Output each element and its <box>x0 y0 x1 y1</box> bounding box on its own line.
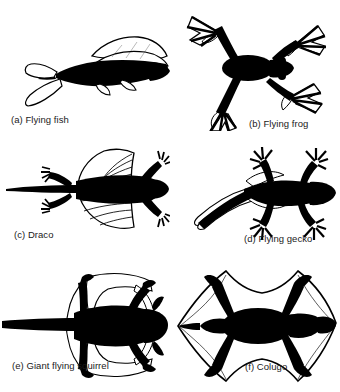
caption-giant-flying-squirrel: (e) Giant flying squirrel <box>12 360 109 371</box>
gliding-animals-figure: (a) Flying fish <box>0 0 340 392</box>
caption-flying-frog: (b) Flying frog <box>249 118 308 129</box>
giant-flying-squirrel-silhouette <box>0 261 170 392</box>
colugo-silhouette <box>170 261 340 392</box>
flying-fish-silhouette <box>0 0 170 131</box>
draco-lizard-silhouette <box>0 131 170 262</box>
panel-giant-flying-squirrel <box>0 261 170 392</box>
caption-draco: (c) Draco <box>14 229 54 240</box>
caption-flying-gecko: (d) Flying gecko <box>244 233 312 244</box>
panel-flying-fish <box>0 0 170 131</box>
panel-colugo <box>170 261 340 392</box>
flying-frog-silhouette <box>170 0 340 131</box>
panel-draco <box>0 131 170 262</box>
caption-flying-fish: (a) Flying fish <box>11 114 69 125</box>
caption-colugo: (f) Colugo <box>245 361 287 372</box>
panel-flying-frog <box>170 0 340 131</box>
